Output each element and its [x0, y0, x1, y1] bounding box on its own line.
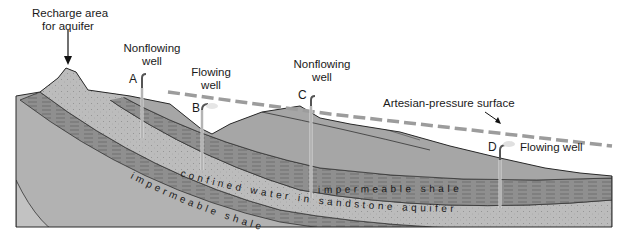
- well-a-label: Nonflowing well: [122, 42, 182, 68]
- artesian-surface-label: Artesian-pressure surface: [383, 97, 515, 110]
- well-d-letter: D: [488, 140, 497, 154]
- artesian-aquifer-cross-section: confined water in sandstone aquifer impe…: [0, 0, 630, 251]
- well-b-label: Flowing well: [186, 66, 236, 92]
- well-b-letter: B: [192, 101, 200, 115]
- well-c-letter: C: [298, 88, 307, 102]
- well-c-label: Nonflowing well: [290, 58, 354, 84]
- well-d-label: Flowing well: [520, 141, 583, 154]
- recharge-label: Recharge area for aquifer: [32, 7, 104, 33]
- impermeable-shale-upper-label: impermeable shale: [318, 183, 462, 195]
- well-a-letter: A: [129, 72, 137, 86]
